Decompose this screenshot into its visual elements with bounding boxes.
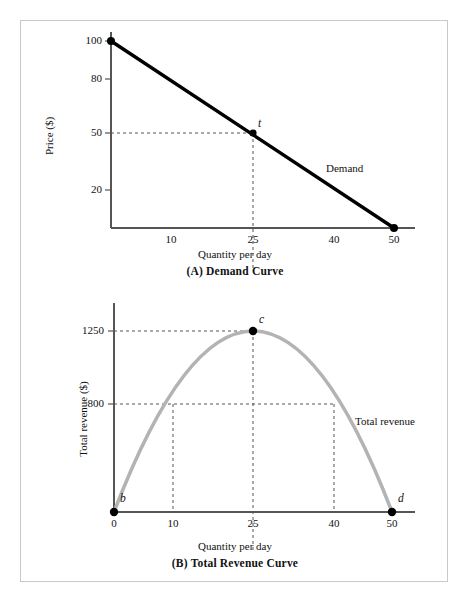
total-revenue-curve-label: Total revenue xyxy=(355,415,415,427)
total-revenue-curve-plot xyxy=(0,0,470,605)
point-label-b: b xyxy=(120,492,126,504)
x-tick-label-b-50: 50 xyxy=(378,517,406,529)
guide-lines-b xyxy=(114,331,334,550)
point-c xyxy=(249,327,257,335)
x-tick-label-b-10: 10 xyxy=(159,517,187,529)
panel-b-caption: (B) Total Revenue Curve xyxy=(0,557,470,569)
x-tick-label-b-40: 40 xyxy=(320,517,348,529)
point-b xyxy=(110,508,118,516)
point-label-d: d xyxy=(398,492,404,504)
y-tick-label-b-1250: 1250 xyxy=(62,324,104,336)
x-tick-label-b-25: 25 xyxy=(239,517,267,529)
point-d xyxy=(388,508,396,516)
y-axis-label-b: Total revenue ($) xyxy=(77,339,89,499)
point-label-c: c xyxy=(259,313,264,325)
x-axis-label-b: Quantity per day xyxy=(0,540,470,552)
x-tick-label-b-0: 0 xyxy=(100,517,128,529)
